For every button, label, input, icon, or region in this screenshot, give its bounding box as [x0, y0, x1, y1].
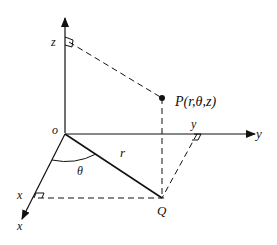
right-angle-x: [34, 193, 44, 198]
point-p: [159, 95, 165, 101]
theta-label: θ: [77, 164, 83, 178]
dashed-y-to-q: [162, 134, 197, 198]
y-tick-label: y: [190, 117, 197, 131]
q-label: Q: [157, 203, 167, 218]
y-axis-label: y: [254, 126, 262, 141]
cylindrical-coordinates-diagram: z o P(r,θ,z) y y r θ x x Q: [0, 0, 277, 245]
x-tick-label: x: [16, 188, 23, 202]
diagram-svg: z o P(r,θ,z) y y r θ x x Q: [0, 0, 277, 245]
theta-arc: [52, 154, 96, 162]
x-axis: [22, 134, 65, 219]
origin-label: o: [52, 123, 58, 137]
z-tick-label: z: [50, 35, 56, 49]
point-p-label: P(r,θ,z): [174, 94, 216, 110]
r-label: r: [120, 145, 126, 160]
dashed-z-to-p: [69, 42, 162, 98]
x-axis-label: x: [16, 219, 23, 233]
